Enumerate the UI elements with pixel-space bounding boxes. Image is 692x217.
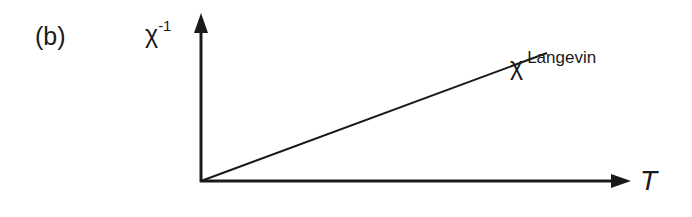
curve-superscript: Langevin: [527, 48, 596, 67]
diagram-canvas: [0, 0, 692, 217]
y-axis-symbol: χ: [145, 20, 158, 48]
langevin-line: [201, 53, 547, 181]
y-axis-label: χ-1: [145, 20, 171, 49]
panel-label: (b): [35, 22, 66, 51]
x-axis-label: T: [640, 165, 657, 197]
curve-symbol: χ: [510, 52, 523, 80]
y-axis-arrowhead: [194, 13, 208, 33]
curve-label: χLangevin: [510, 52, 596, 81]
x-axis-arrowhead: [611, 174, 631, 188]
y-axis-superscript: -1: [158, 17, 171, 34]
